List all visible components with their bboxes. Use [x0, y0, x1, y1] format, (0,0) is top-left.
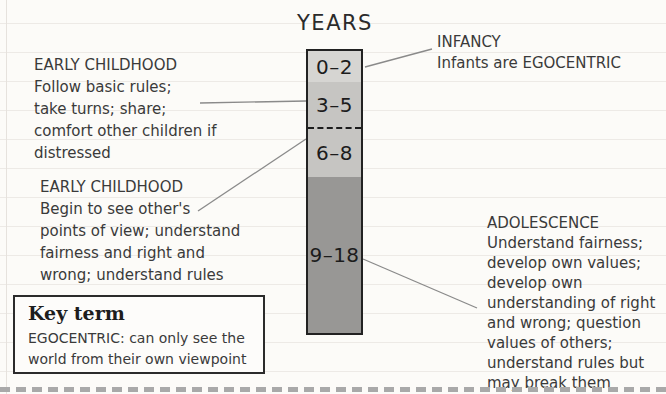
annotation-infancy-line: Infants are EGOCENTRIC [437, 53, 621, 74]
annotation-early-childhood-2: EARLY CHILDHOOD Begin to see other's poi… [40, 176, 240, 286]
segment-label-6-8: 6–8 [316, 141, 353, 165]
annotation-adolescence-line: values of others; [487, 333, 655, 353]
dashed-cut-line [0, 387, 666, 392]
annotation-adolescence-heading: ADOLESCENCE [487, 213, 655, 233]
annotation-ec2-line: Begin to see other's [40, 198, 240, 220]
annotation-adolescence-line: understand rules but [487, 353, 655, 373]
annotation-adolescence-line: understanding of right [487, 293, 655, 313]
annotation-ec1-line: Follow basic rules; [34, 76, 216, 98]
segment-9-18: 9–18 [308, 177, 361, 333]
annotation-ec2-line: wrong; understand rules [40, 264, 240, 286]
annotation-ec1-line: comfort other children if [34, 120, 216, 142]
annotation-ec1-line: take turns; share; [34, 98, 216, 120]
segment-0-2: 0–2 [308, 51, 361, 82]
segment-label-0-2: 0–2 [316, 55, 353, 79]
annotation-ec1-heading: EARLY CHILDHOOD [34, 54, 216, 76]
age-column: 0–2 3–5 6–8 9–18 [306, 49, 363, 335]
annotation-ec2-line: points of view; understand [40, 220, 240, 242]
segment-3-5: 3–5 [308, 82, 361, 127]
annotation-infancy-heading: INFANCY [437, 32, 621, 53]
segment-label-9-18: 9–18 [309, 243, 359, 267]
notebook-margin-line [6, 0, 7, 394]
annotation-ec2-line: fairness and right and [40, 242, 240, 264]
annotation-adolescence-line: develop own [487, 273, 655, 293]
annotation-ec2-heading: EARLY CHILDHOOD [40, 176, 240, 198]
annotation-adolescence-line: Understand fairness; [487, 233, 655, 253]
connector-adolescence [363, 259, 477, 308]
annotation-adolescence: ADOLESCENCE Understand fairness; develop… [487, 213, 655, 393]
annotation-adolescence-line: and wrong; question [487, 313, 655, 333]
annotation-infancy: INFANCY Infants are EGOCENTRIC [437, 32, 621, 74]
segment-label-3-5: 3–5 [316, 93, 353, 117]
key-term-line: EGOCENTRIC: can only see the [28, 328, 250, 349]
notebook-page: YEARS 0–2 3–5 6–8 9–18 INFANCY Infants a… [0, 0, 666, 394]
annotation-adolescence-line: develop own values; [487, 253, 655, 273]
key-term-heading: Key term [28, 302, 250, 324]
key-term-line: world from their own viewpoint [28, 349, 250, 370]
annotation-early-childhood-1: EARLY CHILDHOOD Follow basic rules; take… [34, 54, 216, 164]
annotation-ec1-line: distressed [34, 142, 216, 164]
segment-6-8: 6–8 [308, 127, 361, 177]
key-term-box: Key term EGOCENTRIC: can only see the wo… [13, 295, 265, 374]
connector-infancy [365, 49, 432, 67]
years-axis-title: YEARS [278, 11, 392, 35]
